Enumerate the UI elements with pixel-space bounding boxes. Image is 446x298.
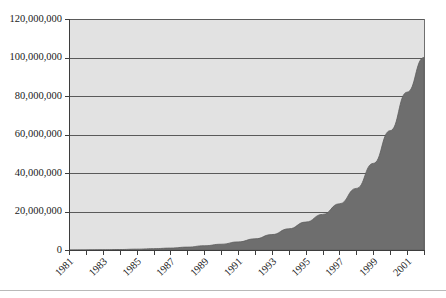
x-tick-label: 1995 (289, 256, 312, 279)
x-tick-label: 1993 (256, 256, 279, 279)
y-tick-label: 80,000,000 (15, 90, 62, 101)
y-tick-label: 40,000,000 (15, 167, 62, 178)
chart-canvas: 020,000,00040,000,00060,000,00080,000,00… (0, 0, 446, 298)
x-tick-label: 1997 (323, 256, 346, 279)
x-tick-label: 1999 (357, 256, 380, 279)
x-tick-label: 1989 (188, 256, 211, 279)
area-chart: 020,000,00040,000,00060,000,00080,000,00… (0, 0, 446, 298)
y-tick-label: 100,000,000 (10, 51, 63, 62)
y-tick-label: 20,000,000 (15, 205, 62, 216)
x-tick-label: 1985 (120, 256, 143, 279)
x-tick-label: 1987 (154, 256, 177, 279)
x-tick-label: 1981 (53, 256, 76, 279)
x-tick-label: 1991 (222, 256, 245, 279)
y-tick-label: 0 (57, 244, 62, 255)
y-tick-label: 120,000,000 (10, 13, 63, 24)
y-tick-label: 60,000,000 (15, 128, 62, 139)
x-tick-label: 1983 (87, 256, 110, 279)
x-tick-label: 2001 (391, 256, 414, 279)
